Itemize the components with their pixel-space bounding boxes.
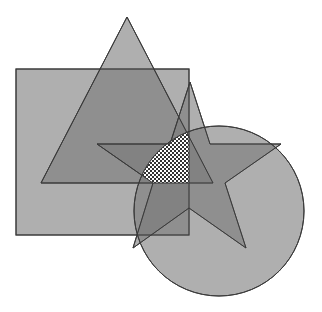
venn-shapes-diagram xyxy=(0,0,322,312)
